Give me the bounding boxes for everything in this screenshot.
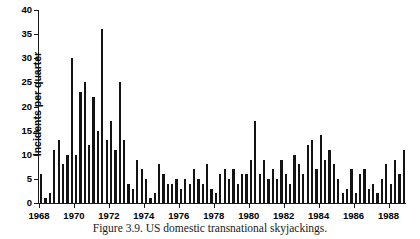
bar: [298, 164, 300, 203]
x-tick-label: 1988: [378, 210, 399, 221]
x-tick-label: 1984: [308, 210, 329, 221]
y-tick-mark: [34, 131, 38, 132]
bar: [315, 169, 317, 203]
bar: [381, 179, 383, 203]
bar: [141, 169, 143, 203]
x-tick-label: 1982: [273, 210, 294, 221]
bar: [149, 198, 151, 203]
x-tick-mark: [389, 204, 390, 208]
y-tick-mark: [34, 34, 38, 35]
x-tick-label: 1976: [168, 210, 189, 221]
bar: [58, 140, 60, 203]
x-axis-line: [38, 203, 406, 204]
bar: [202, 184, 204, 203]
y-tick-mark: [34, 155, 38, 156]
bar: [206, 164, 208, 203]
bar: [293, 155, 295, 203]
bar: [123, 140, 125, 203]
bar: [245, 174, 247, 203]
bar: [119, 82, 121, 203]
y-tick-label: 15: [21, 125, 32, 136]
x-tick-mark: [179, 204, 180, 208]
bar: [394, 160, 396, 203]
bar: [114, 150, 116, 203]
bar: [44, 198, 46, 203]
figure-caption: Figure 3.9. US domestic transnational sk…: [0, 222, 420, 234]
bar: [184, 179, 186, 203]
bar: [127, 184, 129, 203]
bar: [97, 131, 99, 203]
bar: [254, 121, 256, 203]
bar: [171, 184, 173, 203]
bar: [390, 184, 392, 203]
bar: [280, 160, 282, 203]
x-tick-label: 1974: [133, 210, 154, 221]
bar: [66, 155, 68, 203]
bar: [219, 174, 221, 203]
x-tick-mark: [109, 204, 110, 208]
bar: [79, 92, 81, 203]
bar: [359, 174, 361, 203]
bar: [53, 150, 55, 203]
figure-container: Incidents per quarter 0510152025303540 1…: [0, 0, 420, 239]
bar: [241, 174, 243, 203]
y-tick-label: 35: [21, 28, 32, 39]
bar: [328, 150, 330, 203]
y-tick-mark: [34, 203, 38, 204]
y-tick-label: 20: [21, 101, 32, 112]
bar: [215, 193, 217, 203]
bar: [237, 184, 239, 203]
x-tick-mark: [319, 204, 320, 208]
bar: [40, 174, 42, 203]
bar: [101, 29, 103, 203]
bar: [302, 174, 304, 203]
bar: [106, 140, 108, 203]
y-tick-label: 5: [27, 173, 32, 184]
bar: [193, 169, 195, 203]
bar: [158, 164, 160, 203]
bar: [228, 179, 230, 203]
y-tick-label: 25: [21, 76, 32, 87]
bar: [84, 82, 86, 203]
bar: [71, 58, 73, 203]
y-tick-label: 0: [27, 197, 32, 208]
y-tick-mark: [34, 107, 38, 108]
bar: [368, 189, 370, 203]
bar: [154, 193, 156, 203]
bar: [180, 189, 182, 203]
bar: [232, 169, 234, 203]
y-tick-mark: [34, 58, 38, 59]
bar: [250, 160, 252, 203]
bar: [403, 150, 405, 203]
bar: [88, 145, 90, 203]
x-tick-label: 1978: [203, 210, 224, 221]
x-tick-label: 1986: [343, 210, 364, 221]
bar: [342, 193, 344, 203]
x-tick-mark: [74, 204, 75, 208]
bar: [350, 169, 352, 203]
plot-area: 0510152025303540 19681970197219741976197…: [38, 10, 406, 203]
bar: [276, 179, 278, 203]
bar: [320, 135, 322, 203]
bar: [311, 140, 313, 203]
y-tick-label: 30: [21, 52, 32, 63]
bar: [272, 169, 274, 203]
bar: [75, 155, 77, 203]
bar: [376, 193, 378, 203]
x-tick-label: 1972: [98, 210, 119, 221]
bar-series: [39, 10, 406, 203]
x-tick-mark: [284, 204, 285, 208]
y-tick-label: 10: [21, 149, 32, 160]
y-tick-label: 40: [21, 4, 32, 15]
x-tick-label: 1980: [238, 210, 259, 221]
bar: [307, 145, 309, 203]
x-tick-mark: [144, 204, 145, 208]
bar: [210, 189, 212, 203]
bar: [136, 160, 138, 203]
y-tick-mark: [34, 10, 38, 11]
bar: [398, 174, 400, 203]
bar: [49, 193, 51, 203]
bar: [197, 179, 199, 203]
bar: [92, 97, 94, 203]
x-tick-mark: [249, 204, 250, 208]
